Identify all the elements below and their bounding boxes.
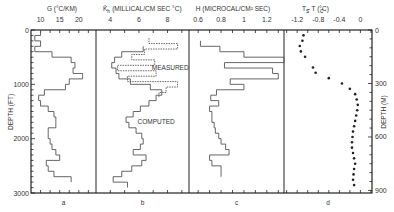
data-point [352, 178, 355, 181]
left-depth-tick-label: 2000 [13, 135, 29, 142]
panel-a-letter: a [62, 199, 66, 206]
series-h [200, 41, 284, 177]
data-point [355, 114, 358, 117]
data-point [351, 146, 354, 149]
data-point [354, 120, 357, 123]
panel-c-x-title: H (MICROCAL/CM² SEC) [196, 5, 270, 13]
data-point [353, 168, 356, 171]
series-g [35, 30, 83, 182]
panel-c-letter: c [235, 199, 239, 206]
data-point [351, 141, 354, 144]
geothermal-depth-profile-chart: G (°C/KM) K̄h(MILLICAL/CM SEC °C) H (MIC… [0, 0, 394, 212]
panel-b-x-tick-label: 4 [108, 16, 112, 23]
panel-c-x-tick-label: 1.2 [262, 16, 272, 23]
annotations: MEASUREDCOMPUTED [137, 64, 188, 125]
panel-d-letter: d [326, 199, 330, 206]
data-point [352, 152, 355, 155]
right-depth-tick-label: 900 [375, 187, 387, 194]
data-point [352, 130, 355, 133]
data-point [356, 104, 359, 107]
outer-frame [31, 30, 372, 193]
data-point [314, 71, 317, 74]
data-point [354, 162, 357, 165]
left-y-axis-title: DEPTH (FT) [7, 94, 15, 130]
data-point [353, 184, 356, 187]
data-point [356, 109, 359, 112]
data-point [312, 66, 315, 69]
data-point [353, 125, 356, 128]
data-point [299, 45, 302, 48]
annotation-computed: COMPUTED [137, 118, 175, 125]
left-depth-tick-label: 3000 [13, 190, 29, 197]
right-depth-tick-label: 0 [375, 27, 379, 34]
panel-b-x-tick-label: 8 [166, 16, 170, 23]
panel-c-x-tick-label: 1 [242, 16, 246, 23]
panel-a-x-tick-label: 15 [56, 16, 64, 23]
panel-c-x-tick-label: 0.6 [193, 16, 203, 23]
data-point [327, 77, 330, 80]
data-point [353, 157, 356, 160]
panel-b-x-title: K̄h(MILLICAL/CM SEC °C) [103, 5, 182, 14]
panel-c-x-tick-label: 0.8 [216, 16, 226, 23]
axis-ticks [31, 30, 372, 193]
data-point [302, 34, 305, 37]
panel-b-x-title-units: (MILLICAL/CM SEC °C) [112, 5, 181, 13]
data-point [351, 136, 354, 139]
data-point [300, 50, 303, 53]
panel-d-x-tick-label: -1.2 [291, 16, 303, 23]
left-depth-tick-label: 0 [25, 27, 29, 34]
panel-b-letter: b [141, 199, 145, 206]
panel-d-x-tick-label: -0.8 [312, 16, 324, 23]
panel-d-x-tick-label: -0.4 [333, 16, 345, 23]
chart-svg: G (°C/KM) K̄h(MILLICAL/CM SEC °C) H (MIC… [0, 0, 394, 212]
plot-frame [31, 30, 372, 193]
data-series [35, 30, 359, 188]
panel-a-x-tick-label: 20 [75, 16, 83, 23]
left-depth-tick-label: 1000 [13, 81, 29, 88]
panel-b-x-title-sub: h [107, 8, 110, 14]
data-point [341, 82, 344, 85]
data-point [304, 55, 307, 58]
right-y-axis-title: DEPTH (M) [380, 95, 388, 129]
panel-a-x-tick-label: 10 [37, 16, 45, 23]
panel-b-x-tick-label: 6 [137, 16, 141, 23]
annotation-measured: MEASURED [152, 64, 189, 71]
right-depth-tick-label: 600 [375, 133, 387, 140]
data-point [352, 173, 355, 176]
panel-a-x-title: G (°C/KM) [47, 5, 77, 13]
data-point [355, 98, 358, 101]
data-point [301, 39, 304, 42]
right-depth-tick-label: 300 [375, 80, 387, 87]
data-point [354, 93, 357, 96]
data-point [349, 88, 352, 91]
panel-d-x-tick-label: 0 [358, 16, 362, 23]
